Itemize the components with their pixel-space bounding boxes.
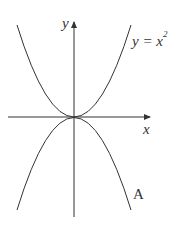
equation-exponent: 2	[163, 29, 168, 39]
y-axis-label: y	[62, 16, 69, 31]
equation-label: y = x2	[132, 33, 167, 49]
x-axis-label: x	[143, 122, 150, 137]
curve-a-label: A	[133, 187, 144, 202]
equation-text: y = x	[132, 33, 163, 49]
